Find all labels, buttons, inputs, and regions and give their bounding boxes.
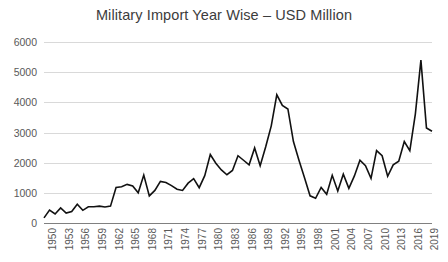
x-axis-tick-label: 1965 <box>131 228 141 250</box>
x-axis-tick-label: 2007 <box>364 228 374 250</box>
x-axis-tick-label: 2019 <box>430 228 440 250</box>
x-axis-tick-label: 1956 <box>81 228 91 250</box>
x-axis-tick-label: 1977 <box>198 228 208 250</box>
x-axis-tick-label: 1971 <box>164 228 174 250</box>
x-axis-tick-label: 1989 <box>264 228 274 250</box>
x-axis-tick-label: 1983 <box>231 228 241 250</box>
x-axis-tick-labels: 1950195319561959196219651968197119741977… <box>0 0 448 262</box>
x-axis-tick-label: 1992 <box>281 228 291 250</box>
x-axis-tick-label: 1980 <box>214 228 224 250</box>
x-axis-tick-label: 2013 <box>397 228 407 250</box>
x-axis-tick-label: 1995 <box>297 228 307 250</box>
x-axis-tick-label: 2001 <box>331 228 341 250</box>
x-axis-tick-label: 1959 <box>98 228 108 250</box>
chart-container: Military Import Year Wise – USD Million … <box>0 0 448 262</box>
x-axis-tick-label: 2010 <box>381 228 391 250</box>
x-axis-tick-label: 1950 <box>48 228 58 250</box>
x-axis-tick-label: 1986 <box>248 228 258 250</box>
x-axis-tick-label: 2016 <box>414 228 424 250</box>
x-axis-tick-label: 2004 <box>347 228 357 250</box>
x-axis-tick-label: 1968 <box>148 228 158 250</box>
x-axis-tick-label: 1953 <box>65 228 75 250</box>
x-axis-tick-label: 1998 <box>314 228 324 250</box>
x-axis-tick-label: 1974 <box>181 228 191 250</box>
x-axis-tick-label: 1962 <box>115 228 125 250</box>
